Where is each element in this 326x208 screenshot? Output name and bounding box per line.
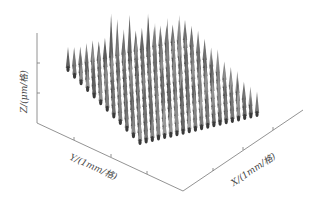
surface-peaks [66, 14, 259, 145]
surface-plot [0, 0, 326, 208]
z-axis-label: Z/(μm/格) [17, 70, 30, 113]
